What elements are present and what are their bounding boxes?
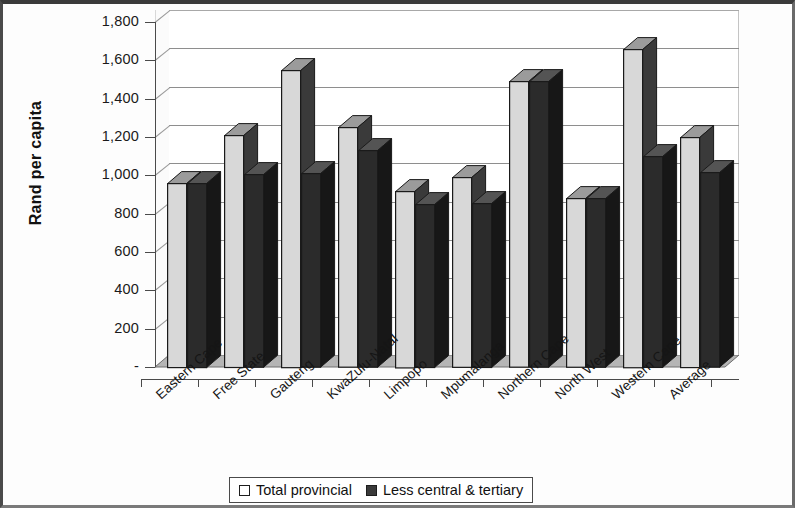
x-axis-tick	[141, 379, 142, 387]
bar-3d-shape	[700, 160, 735, 369]
bar-less-central-tertiary	[187, 183, 206, 367]
x-axis-tick	[483, 379, 484, 387]
x-axis-tick	[426, 379, 427, 387]
bar-less-central-tertiary	[529, 81, 548, 367]
bar-3d-shape	[586, 186, 621, 369]
x-axis-tick	[312, 379, 313, 387]
bar-less-central-tertiary	[700, 172, 719, 367]
y-axis-tick	[145, 290, 155, 291]
x-axis-tick	[369, 379, 370, 387]
y-axis-tick	[145, 22, 155, 23]
y-axis-tick-label: 200	[77, 320, 139, 336]
y-axis-tick	[145, 60, 155, 61]
bar-total-provincial	[224, 135, 243, 367]
gridline	[169, 10, 739, 11]
y-axis-tick-label: 800	[77, 205, 139, 221]
x-axis-tick	[255, 379, 256, 387]
bar-3d-shape	[472, 191, 507, 369]
y-axis-tick-label: 1,000	[77, 166, 139, 182]
y-axis-tick-label: 600	[77, 243, 139, 259]
y-axis-line	[155, 22, 156, 367]
y-axis-tick-label: 1,200	[77, 128, 139, 144]
bar-total-provincial	[281, 70, 300, 367]
y-axis-tick	[145, 99, 155, 100]
y-axis-tick	[145, 137, 155, 138]
chart-legend: Total provincial Less central & tertiary	[229, 477, 533, 503]
bar-total-provincial	[623, 49, 642, 367]
bar-less-central-tertiary	[358, 150, 377, 367]
y-axis-tick	[145, 214, 155, 215]
legend-item-less-central-tertiary: Less central & tertiary	[366, 482, 523, 498]
bar-less-central-tertiary	[244, 174, 263, 367]
bar-less-central-tertiary	[415, 204, 434, 367]
y-axis-tick	[145, 329, 155, 330]
bar-total-provincial	[338, 127, 357, 367]
bar-less-central-tertiary	[586, 198, 605, 367]
y-axis-tick-label: 1,400	[77, 90, 139, 106]
bar-total-provincial	[167, 183, 186, 367]
bar-3d-shape	[415, 192, 450, 369]
bar-3d-shape	[301, 161, 336, 369]
bar-less-central-tertiary	[643, 156, 662, 367]
legend-label: Total provincial	[256, 482, 352, 498]
y-axis-tick-label: -	[77, 358, 139, 374]
legend-item-total-provincial: Total provincial	[239, 482, 352, 498]
bar-less-central-tertiary	[472, 203, 491, 367]
x-axis-tick	[711, 379, 712, 387]
y-axis-tick-label: 1,800	[77, 13, 139, 29]
y-axis-tick-label: 1,600	[77, 51, 139, 67]
bar-total-provincial	[452, 177, 471, 367]
legend-label: Less central & tertiary	[383, 482, 523, 498]
bar-less-central-tertiary	[301, 173, 320, 367]
y-axis-title: Rand per capita	[27, 68, 45, 258]
legend-swatch-icon-light	[239, 485, 250, 496]
bar-total-provincial	[509, 81, 528, 367]
x-axis-tick	[540, 379, 541, 387]
y-axis-tick-label: 400	[77, 281, 139, 297]
x-axis-tick	[654, 379, 655, 387]
bar-total-provincial	[680, 137, 699, 367]
x-axis-tick	[597, 379, 598, 387]
bar-3d-shape	[244, 162, 279, 369]
page-frame: -2004006008001,0001,2001,4001,6001,800 R…	[0, 0, 795, 508]
y-axis-tick	[145, 367, 155, 368]
bar-3d-shape	[529, 69, 564, 369]
x-axis-tick	[198, 379, 199, 387]
legend-swatch-icon-dark	[366, 485, 377, 496]
bar-chart: -2004006008001,0001,2001,4001,6001,800 R…	[3, 4, 795, 508]
y-axis-tick	[145, 175, 155, 176]
y-axis-tick	[145, 252, 155, 253]
